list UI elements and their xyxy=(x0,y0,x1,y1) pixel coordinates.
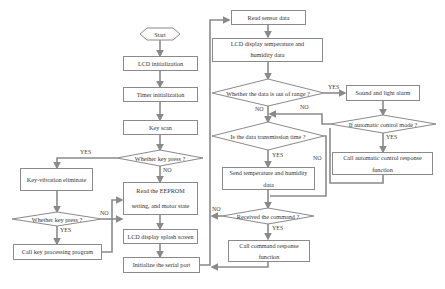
out-of-range-decision: Whether the data is out of range ? xyxy=(226,90,310,97)
send-temperature-humidity-box: Send temperature and humidity data xyxy=(222,167,315,190)
lcd-temp-line1: LCD display temperature and xyxy=(231,39,304,50)
no-label: NO xyxy=(163,167,172,173)
lcd-temp-line2: humidity data xyxy=(250,50,284,61)
whether-key-press-decision-1: Whether key press ? xyxy=(135,155,185,162)
yes-label: YES xyxy=(386,134,397,140)
call-command-line1: Call command response xyxy=(239,240,298,251)
call-auto-line2: function xyxy=(372,164,393,175)
lcd-splash-screen-box: LCD display splash screen xyxy=(123,229,198,244)
initialize-serial-port-box: Initialize the serial port xyxy=(123,257,200,273)
read-eeprom-box: Read the EEPROM setting, and motor state xyxy=(123,182,198,215)
key-vibration-eliminate-box: Key-vibration eliminate xyxy=(20,168,93,191)
call-command-response-box: Call command response function xyxy=(228,240,310,262)
yes-label: YES xyxy=(60,227,71,233)
no-label: NO xyxy=(255,106,264,112)
lcd-initialization-box: LCD initialization xyxy=(123,56,198,71)
yes-label: YES xyxy=(272,152,283,158)
call-command-line2: function xyxy=(259,251,280,262)
no-label: NO xyxy=(212,206,221,212)
call-auto-line1: Call automatic control response xyxy=(343,152,422,163)
send-data-line1: Send temperature and humidity xyxy=(230,167,308,178)
transmission-time-decision: Is the data transmission time ? xyxy=(230,133,305,140)
key-scan-box: Key scan xyxy=(123,120,198,135)
no-label: NO xyxy=(300,104,309,110)
call-key-processing-box: Call key processing program xyxy=(13,244,102,260)
no-label: NO xyxy=(313,155,322,161)
read-eeprom-line2: setting, and motor state xyxy=(132,199,190,214)
no-label: NO xyxy=(100,210,109,216)
yes-label: YES xyxy=(80,149,91,155)
yes-label: YES xyxy=(272,225,283,231)
yes-label: YES xyxy=(328,84,339,90)
automatic-control-mode-decision: If automatic control mode ? xyxy=(349,121,418,128)
start-terminal: Start xyxy=(154,31,166,38)
call-automatic-control-box: Call automatic control response function xyxy=(332,152,433,175)
sound-light-alarm-box: Sound and light alarm xyxy=(346,85,420,101)
read-sensor-data-box: Read sensor data xyxy=(231,10,306,25)
send-data-line2: data xyxy=(263,179,273,190)
read-eeprom-line1: Read the EEPROM xyxy=(136,184,184,199)
timer-initialization-box: Timer initialization xyxy=(123,87,198,102)
lcd-display-temperature-box: LCD display temperature and humidity dat… xyxy=(212,38,323,62)
whether-key-press-decision-2: Whether key press ? xyxy=(32,216,82,223)
received-command-decision: Received the command ? xyxy=(237,213,299,220)
